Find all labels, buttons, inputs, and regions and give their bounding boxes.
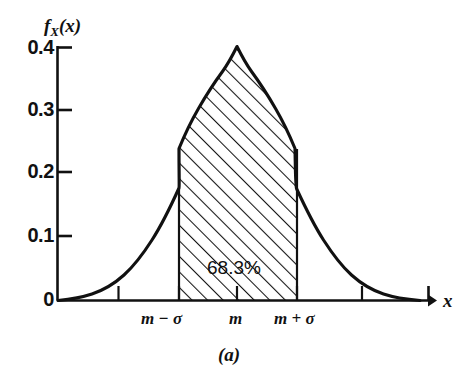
y-axis-ticks — [58, 48, 73, 237]
x-tick-label-m-minus-sigma: m − σ — [141, 310, 182, 327]
x-tick-label-m-plus-sigma: m + σ — [274, 310, 315, 327]
y-tick-label-0.1: 0.1 — [10, 225, 54, 245]
shaded-area-percent-label: 68.3% — [207, 258, 261, 277]
normal-distribution-figure: fX(x) 0.4 0.3 0.2 0.1 0 m − σ m m + σ x … — [0, 0, 463, 379]
y-tick-label-0.3: 0.3 — [10, 99, 54, 119]
y-tick-label-0.4: 0.4 — [10, 37, 54, 57]
y-axis-title: fX(x) — [44, 16, 81, 38]
figure-caption: (a) — [218, 345, 240, 364]
x-axis-title: x — [443, 291, 453, 310]
x-tick-label-m: m — [229, 310, 242, 327]
y-tick-label-0.2: 0.2 — [10, 161, 54, 181]
y-tick-label-0: 0 — [10, 289, 54, 309]
y-axis-title-suffix: (x) — [59, 15, 81, 36]
